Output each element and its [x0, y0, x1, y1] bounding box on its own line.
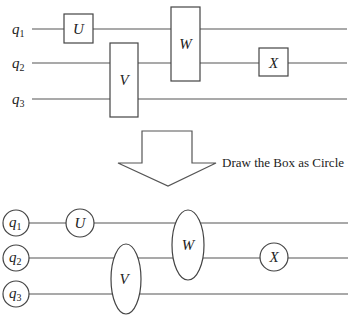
top-qubit-label-q3: q3 — [12, 91, 25, 109]
svg-text:U: U — [73, 21, 85, 37]
svg-text:q2: q2 — [12, 55, 25, 73]
top-gate-u: U — [64, 14, 93, 43]
svg-text:U: U — [75, 215, 87, 231]
top-circuit: q1 q2 q3 U V W X — [12, 7, 347, 117]
svg-text:W: W — [182, 237, 196, 253]
svg-text:W: W — [179, 36, 193, 52]
diagram-canvas: q1 q2 q3 U V W X Draw the — [0, 0, 355, 322]
bottom-qubit-q1: q1 — [3, 210, 29, 236]
transition-caption: Draw the Box as Circle — [222, 155, 344, 170]
top-gate-x: X — [259, 48, 288, 76]
bottom-gate-v: V — [111, 244, 141, 314]
top-qubit-label-q2: q2 — [12, 55, 25, 73]
bottom-circuit: q1 q2 q3 U V W X — [3, 209, 348, 314]
bottom-gate-w: W — [172, 210, 204, 280]
down-arrow-icon — [118, 131, 216, 186]
top-qubit-label-q1: q1 — [12, 21, 25, 39]
top-gate-v: V — [110, 43, 138, 117]
svg-text:q3: q3 — [12, 91, 25, 109]
transition: Draw the Box as Circle — [118, 131, 344, 186]
svg-text:X: X — [268, 249, 279, 265]
bottom-gate-u: U — [66, 209, 94, 237]
svg-text:X: X — [268, 55, 279, 71]
bottom-qubit-q3: q3 — [3, 281, 29, 307]
svg-text:q1: q1 — [12, 21, 25, 39]
top-gate-w: W — [171, 7, 200, 81]
bottom-gate-x: X — [260, 243, 288, 271]
bottom-qubit-q2: q2 — [3, 245, 29, 271]
